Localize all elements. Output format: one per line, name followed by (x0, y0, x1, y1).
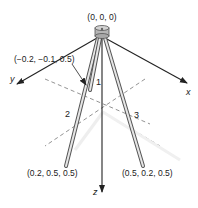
leg-3-label: 3 (134, 110, 139, 120)
y-axis-label: y (9, 74, 15, 84)
leg-3-end-label: (0.5, 0.2, 0.5) (122, 168, 173, 178)
tripod-diagram: (0, 0, 0) (−0.2, −0.1, 0.5) (0.2, 0.5, 0… (0, 0, 198, 208)
shadow-line-right (103, 112, 180, 160)
x-axis-label: x (185, 87, 191, 97)
hub (95, 26, 109, 39)
leg-3 (105, 38, 143, 166)
leg-1-end-label: (−0.2, −0.1, 0.5) (14, 54, 75, 64)
origin-label: (0, 0, 0) (87, 12, 116, 22)
leg-1-pointer (72, 64, 86, 85)
leg-2-end-label: (0.2, 0.5, 0.5) (27, 168, 78, 178)
z-axis-label: z (92, 187, 98, 197)
leg-2-label: 2 (65, 109, 70, 119)
dashed-line-right (45, 79, 145, 146)
leg-1-label: 1 (96, 77, 101, 87)
